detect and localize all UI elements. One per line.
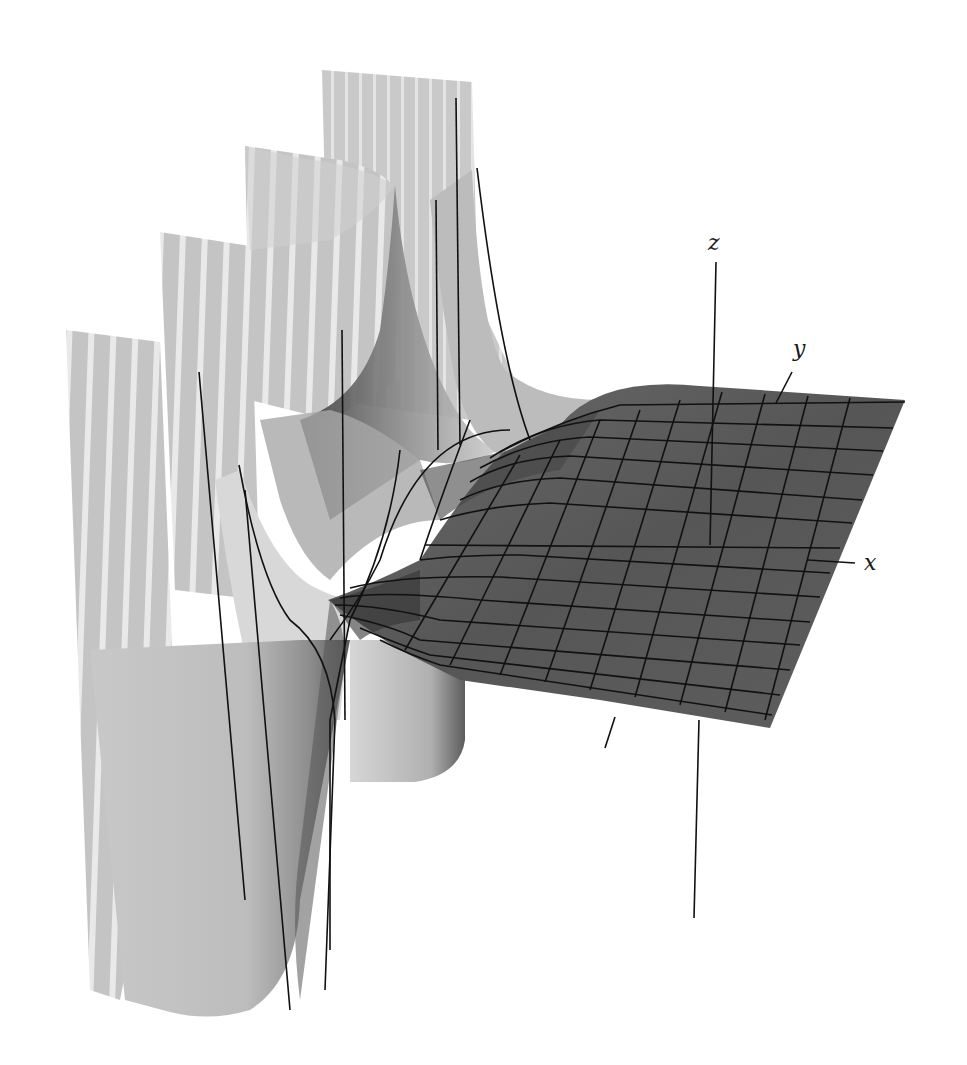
- y-axis-neg-line: [605, 717, 615, 748]
- z-axis-neg-line: [694, 720, 699, 918]
- y-axis-label: y: [792, 336, 806, 361]
- x-axis-label: x: [864, 550, 877, 575]
- z-axis-label: z: [707, 230, 720, 255]
- surface-figure: z y x: [0, 0, 967, 1065]
- front-cylinder: [90, 600, 350, 1017]
